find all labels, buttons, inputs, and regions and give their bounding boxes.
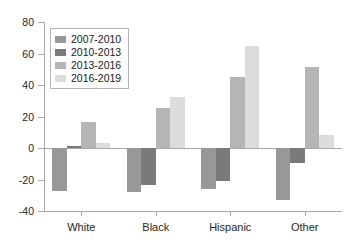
- bar: [170, 97, 185, 148]
- legend-item: 2016-2019: [55, 72, 121, 84]
- y-axis-tick-label: 80: [22, 17, 34, 27]
- x-axis-tick-label: Other: [291, 221, 319, 233]
- legend-item: 2007-2010: [55, 33, 121, 45]
- legend-swatch-icon: [55, 75, 66, 82]
- legend-label: 2007-2010: [71, 34, 121, 45]
- x-axis-tick: [81, 211, 82, 216]
- bar-chart: 806040200-20-40 WhiteBlackHispanicOther …: [0, 0, 352, 252]
- bar: [127, 148, 142, 192]
- x-axis-tick: [305, 211, 306, 216]
- bar: [141, 148, 156, 185]
- x-axis-tick-label: White: [67, 221, 95, 233]
- bar: [201, 148, 216, 189]
- x-axis-line: [44, 211, 342, 212]
- legend-swatch-icon: [55, 49, 66, 56]
- y-axis-tick-label: 20: [22, 112, 34, 122]
- bar: [81, 122, 96, 148]
- y-axis-tick-label: -40: [19, 206, 34, 216]
- bar: [290, 148, 305, 163]
- y-axis-tick-label: 40: [22, 80, 34, 90]
- bar: [305, 67, 320, 148]
- x-axis-tick: [156, 211, 157, 216]
- legend-item: 2013-2016: [55, 59, 121, 71]
- bar: [216, 148, 231, 181]
- legend-swatch-icon: [55, 36, 66, 43]
- legend-label: 2016-2019: [71, 73, 121, 84]
- legend: 2007-20102010-20132013-20162016-2019: [50, 28, 129, 89]
- legend-label: 2010-2013: [71, 47, 121, 58]
- bar: [245, 46, 260, 148]
- bar: [230, 77, 245, 148]
- bar: [67, 146, 82, 148]
- y-axis-tick-label: -20: [19, 175, 34, 185]
- bar: [319, 135, 334, 148]
- bar: [276, 148, 291, 200]
- legend-item: 2010-2013: [55, 46, 121, 58]
- y-axis-tick-label: 60: [22, 49, 34, 59]
- y-axis-tick-label: 0: [28, 143, 34, 153]
- y-axis-tick: [38, 211, 44, 212]
- legend-label: 2013-2016: [71, 60, 121, 71]
- bar: [96, 143, 111, 148]
- x-axis-tick-label: Hispanic: [209, 221, 251, 233]
- x-axis-tick: [230, 211, 231, 216]
- bar: [156, 108, 171, 148]
- legend-swatch-icon: [55, 62, 66, 69]
- x-axis-tick-label: Black: [142, 221, 169, 233]
- bar: [52, 148, 67, 191]
